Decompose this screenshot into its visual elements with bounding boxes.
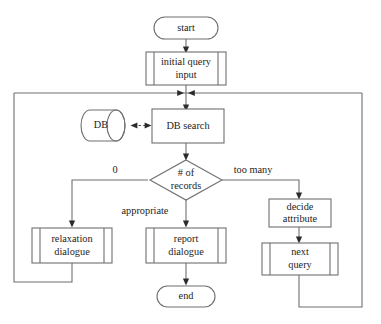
node-decision-records[interactable]: # of records (150, 160, 222, 200)
node-start[interactable]: start (154, 17, 218, 39)
flowchart-canvas: start initial query input DB DB search #… (0, 0, 381, 324)
edge-label-zero: 0 (112, 164, 117, 175)
edge-label-too-many: too many (234, 164, 273, 175)
node-relaxation-dialogue-label-1: relaxation (51, 233, 92, 244)
node-report-dialogue-label-2: dialogue (168, 246, 204, 257)
node-end[interactable]: end (157, 286, 215, 307)
loop-junction-bar (14, 90, 362, 96)
edge-db-to-db-search (131, 122, 152, 128)
node-start-label: start (177, 22, 195, 33)
edge-label-appropriate: appropriate (122, 205, 169, 216)
edge-decision-to-decide-attribute (222, 180, 302, 200)
node-db-search[interactable]: DB search (152, 109, 224, 143)
node-next-query-label-2: query (288, 259, 312, 270)
edge-report-to-end (183, 263, 189, 286)
node-next-query[interactable]: next query (262, 243, 338, 275)
node-initial-query-input-label-1: initial query (161, 56, 212, 67)
edge-decision-to-report (183, 200, 189, 228)
flowchart-svg: start initial query input DB DB search #… (0, 0, 381, 324)
node-decide-attribute-label-2: attribute (283, 213, 318, 224)
node-report-dialogue-label-1: report (174, 233, 199, 244)
node-decide-attribute[interactable]: decide attribute (269, 199, 331, 227)
edge-start-to-initial-query (183, 39, 189, 54)
node-db-search-label: DB search (166, 120, 210, 131)
node-decision-label-1: # of (178, 167, 195, 178)
edge-db-search-to-decision (183, 143, 189, 161)
node-report-dialogue[interactable]: report dialogue (146, 228, 226, 263)
node-relaxation-dialogue[interactable]: relaxation dialogue (32, 228, 112, 263)
node-initial-query-input[interactable]: initial query input (146, 52, 226, 85)
node-decide-attribute-label-1: decide (287, 201, 314, 212)
edge-decide-attribute-to-next-query (296, 227, 302, 244)
node-decision-label-2: records (171, 180, 201, 191)
node-initial-query-input-label-2: input (175, 69, 196, 80)
node-next-query-label-1: next (291, 246, 309, 257)
node-db-label: DB (94, 119, 108, 130)
node-end-label: end (179, 290, 195, 301)
node-relaxation-dialogue-label-2: dialogue (54, 246, 90, 257)
node-db[interactable]: DB (81, 110, 125, 141)
edge-decision-to-relaxation (69, 180, 148, 228)
